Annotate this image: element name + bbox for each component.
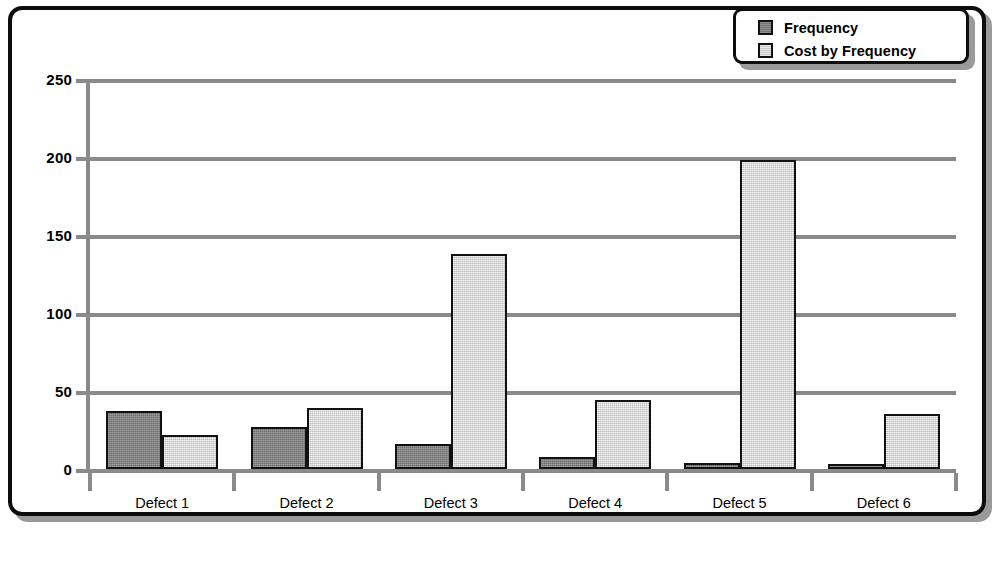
- x-tick-mark-0: [88, 473, 92, 491]
- y-tick-mark-250: [76, 79, 88, 83]
- legend-label-cost-by-frequency: Cost by Frequency: [784, 43, 916, 59]
- x-tick-mark-4: [665, 473, 669, 491]
- bar-defect-1-frequency[interactable]: [106, 411, 162, 469]
- x-axis-label-defect-3: Defect 3: [424, 495, 478, 511]
- y-tick-label-150: 150: [46, 227, 72, 244]
- bar-defect-1-cost-by-frequency[interactable]: [162, 435, 218, 469]
- x-axis-label-defect-6: Defect 6: [857, 495, 911, 511]
- x-axis-label-defect-1: Defect 1: [135, 495, 189, 511]
- y-tick-label-0: 0: [63, 461, 72, 478]
- y-tick-mark-100: [76, 313, 88, 317]
- y-tick-label-200: 200: [46, 149, 72, 166]
- x-tick-mark-3: [521, 473, 525, 491]
- y-tick-label-100: 100: [46, 305, 72, 322]
- y-tick-label-50: 50: [55, 383, 72, 400]
- y-tick-mark-200: [76, 157, 88, 161]
- bar-defect-5-cost-by-frequency[interactable]: [740, 160, 796, 469]
- x-tick-mark-2: [377, 473, 381, 491]
- x-axis-label-defect-5: Defect 5: [713, 495, 767, 511]
- bar-defect-6-cost-by-frequency[interactable]: [884, 414, 940, 469]
- x-axis-label-defect-2: Defect 2: [280, 495, 334, 511]
- bars-group: [90, 79, 956, 469]
- y-tick-mark-0: [76, 469, 88, 473]
- x-tick-mark-6: [954, 473, 958, 491]
- y-tick-mark-50: [76, 391, 88, 395]
- legend-swatch-cost-by-frequency-icon: [758, 43, 773, 58]
- y-tick-label-250: 250: [46, 71, 72, 88]
- x-axis-group: Defect 1Defect 2Defect 3Defect 4Defect 5…: [90, 469, 956, 529]
- y-tick-mark-150: [76, 235, 88, 239]
- bar-defect-3-cost-by-frequency[interactable]: [451, 254, 507, 469]
- plot-area: 050100150200250: [90, 79, 956, 469]
- legend-swatch-frequency-icon: [758, 20, 773, 35]
- x-axis-label-defect-4: Defect 4: [568, 495, 622, 511]
- bar-defect-4-frequency[interactable]: [539, 457, 595, 469]
- chart-legend: Frequency Cost by Frequency: [733, 8, 969, 64]
- chart-screenshot: 050100150200250 Defect 1Defect 2Defect 3…: [0, 0, 1005, 564]
- bar-defect-4-cost-by-frequency[interactable]: [595, 400, 651, 469]
- bar-defect-2-cost-by-frequency[interactable]: [307, 408, 363, 469]
- legend-item-cost-by-frequency[interactable]: Cost by Frequency: [758, 40, 966, 61]
- bar-defect-3-frequency[interactable]: [395, 444, 451, 469]
- bar-defect-2-frequency[interactable]: [251, 427, 307, 469]
- x-tick-mark-1: [232, 473, 236, 491]
- legend-item-frequency[interactable]: Frequency: [758, 17, 966, 38]
- x-tick-mark-5: [810, 473, 814, 491]
- legend-label-frequency: Frequency: [784, 20, 858, 36]
